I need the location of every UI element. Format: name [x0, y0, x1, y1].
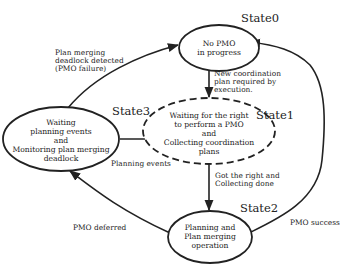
- svg-text:execution.: execution.: [214, 85, 253, 94]
- state0-node: No PMO in progress: [179, 25, 259, 71]
- state3-text-line-5: deadlock: [44, 154, 79, 163]
- state3-node: Waiting planning events and Monitoring p…: [3, 107, 119, 171]
- state1-label: State1: [256, 108, 294, 122]
- svg-text:Planning events: Planning events: [111, 159, 171, 168]
- state0-text-line-2: in progress: [197, 48, 241, 57]
- edge-label-pmo-success: PMO success: [290, 218, 340, 227]
- state-diagram: No PMO in progress State0 Waiting for th…: [0, 0, 349, 269]
- state2-text-line-1: Planning and: [185, 223, 236, 232]
- state2-text-line-2: Plan merging: [184, 232, 236, 241]
- state2-text-line-3: operation: [191, 241, 228, 250]
- state2-node: Planning and Plan merging operation: [168, 211, 252, 263]
- state2-label: State2: [240, 201, 278, 215]
- state3-text-line-3: and: [54, 136, 68, 145]
- svg-text:PMO success: PMO success: [290, 218, 340, 227]
- state3-text-line-2: planning events: [30, 127, 91, 136]
- state3-text-line-4: Monitoring plan merging: [12, 145, 109, 154]
- edge-label-got-the-right: Got the right and Collecting done: [215, 171, 280, 188]
- svg-text:(PMO failure): (PMO failure): [55, 64, 106, 73]
- state3-label: State3: [112, 104, 150, 118]
- state1-text-line-3: and: [202, 129, 216, 138]
- state1-text-line-1: Waiting for the right: [170, 111, 249, 120]
- edge-label-new-coordination: New coordination plan required by execut…: [214, 69, 281, 94]
- state0-text-line-1: No PMO: [203, 39, 236, 48]
- state3-text-line-1: Waiting: [46, 118, 75, 127]
- svg-text:PMO deferred: PMO deferred: [73, 223, 127, 232]
- edge-label-planning-events: Planning events: [111, 159, 171, 168]
- state0-label: State0: [241, 11, 279, 25]
- state1-text-line-5: plans: [199, 147, 220, 156]
- state1-text-line-2: to perform a PMO: [174, 120, 244, 129]
- edge-label-deadlock-detected: Plan merging deadlock detected (PMO fail…: [55, 48, 124, 73]
- svg-text:Collecting done: Collecting done: [215, 179, 274, 188]
- state1-text-line-4: Collecting coordination: [164, 138, 254, 147]
- edge-label-pmo-deferred: PMO deferred: [73, 223, 127, 232]
